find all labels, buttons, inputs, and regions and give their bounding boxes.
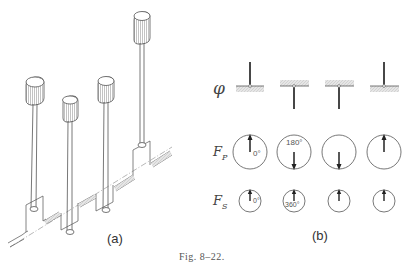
figure-caption: Fig. 8–22. xyxy=(179,251,225,262)
phi-row xyxy=(236,62,399,109)
fp-label: FP xyxy=(213,144,227,162)
phi-label: φ xyxy=(213,78,225,98)
piston-4 xyxy=(134,12,150,148)
crankshaft xyxy=(8,141,172,247)
fp-label-main: F xyxy=(213,144,222,159)
fs-label-main: F xyxy=(213,193,222,208)
fs-label-sub: S xyxy=(222,202,227,211)
fs-angle-360: 360° xyxy=(285,201,299,208)
figure-canvas xyxy=(0,0,409,266)
fs-angle-0: 0° xyxy=(253,197,260,204)
panel-a-label: (a) xyxy=(107,231,123,246)
fp-label-sub: P xyxy=(222,153,227,162)
panel-b-label: (b) xyxy=(312,228,328,243)
fs-label: FS xyxy=(213,193,228,211)
piston-3 xyxy=(98,77,114,213)
phi-crank-3 xyxy=(325,80,354,109)
piston-1 xyxy=(26,77,44,212)
piston-2 xyxy=(63,96,79,235)
phi-crank-1 xyxy=(236,62,264,92)
phi-crank-4 xyxy=(370,62,399,92)
phi-crank-2 xyxy=(280,80,309,109)
fs-row xyxy=(239,189,395,212)
fp-angle-0: 0° xyxy=(253,149,261,158)
fp-angle-180: 180° xyxy=(286,138,303,147)
